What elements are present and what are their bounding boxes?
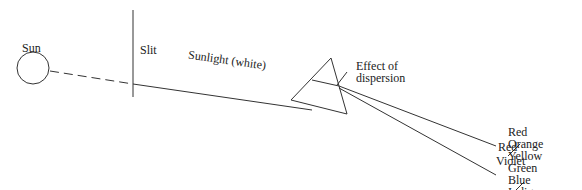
effect-label-2: dispersion bbox=[356, 72, 405, 84]
sun-label: Sun bbox=[22, 42, 41, 54]
dashed-ray bbox=[50, 71, 133, 84]
dispersion-diagram: Sun Slit Sunlight (white) Effect of disp… bbox=[0, 0, 582, 190]
red-ray bbox=[339, 86, 496, 146]
sun-circle bbox=[17, 52, 49, 84]
slit-label: Slit bbox=[140, 44, 157, 56]
spectrum-list: Red Orange Yellow Green Blue Indigo Viol… bbox=[508, 126, 543, 190]
violet-ray bbox=[339, 88, 496, 175]
white-ray bbox=[133, 84, 312, 110]
diagram-lines bbox=[0, 0, 582, 190]
spectrum-item: Indigo bbox=[508, 186, 543, 190]
effect-pointer bbox=[337, 72, 347, 85]
